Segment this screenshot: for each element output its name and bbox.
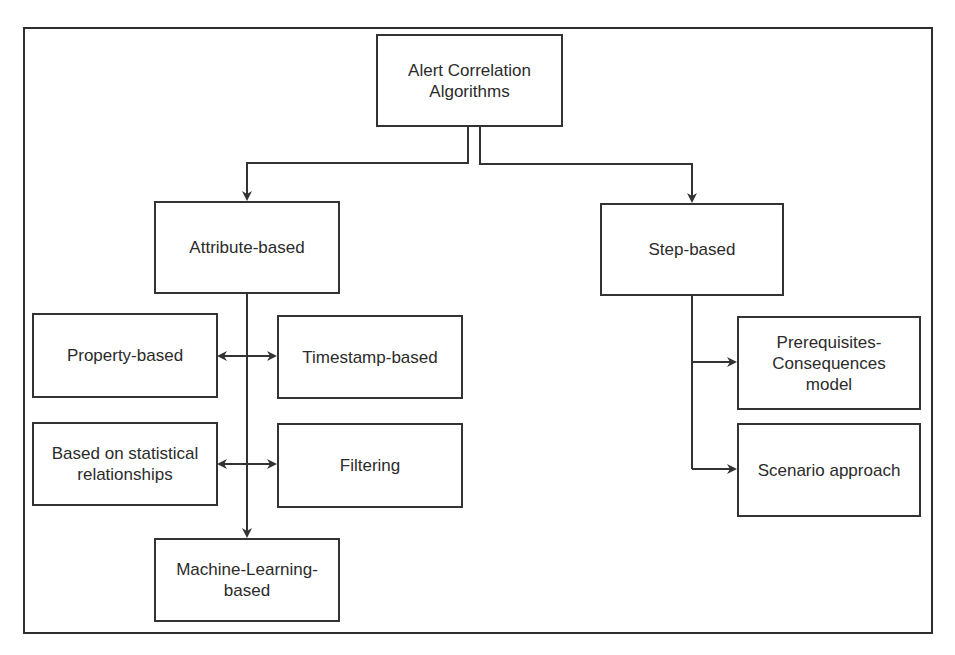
node-scenario-approach: Scenario approach bbox=[737, 423, 921, 517]
node-filtering: Filtering bbox=[277, 423, 463, 508]
node-alert-correlation-algorithms: Alert Correlation Algorithms bbox=[376, 34, 563, 127]
node-label: Scenario approach bbox=[758, 460, 901, 481]
node-machine-learning-based: Machine-Learning- based bbox=[154, 538, 340, 622]
node-label: Step-based bbox=[649, 239, 736, 260]
node-label: Timestamp-based bbox=[302, 347, 437, 368]
node-label: Alert Correlation Algorithms bbox=[408, 60, 531, 102]
node-statistical-relationships: Based on statistical relationships bbox=[32, 422, 218, 506]
node-timestamp-based: Timestamp-based bbox=[277, 315, 463, 399]
node-label: Property-based bbox=[67, 345, 183, 366]
node-prerequisites-consequences-model: Prerequisites- Consequences model bbox=[737, 316, 921, 410]
node-step-based: Step-based bbox=[600, 203, 784, 296]
node-label: Prerequisites- Consequences model bbox=[772, 332, 885, 395]
node-label: Attribute-based bbox=[189, 237, 304, 258]
node-attribute-based: Attribute-based bbox=[154, 201, 340, 294]
node-property-based: Property-based bbox=[32, 313, 218, 398]
node-label: Filtering bbox=[340, 455, 400, 476]
node-label: Based on statistical relationships bbox=[52, 443, 198, 485]
node-label: Machine-Learning- based bbox=[176, 559, 318, 601]
